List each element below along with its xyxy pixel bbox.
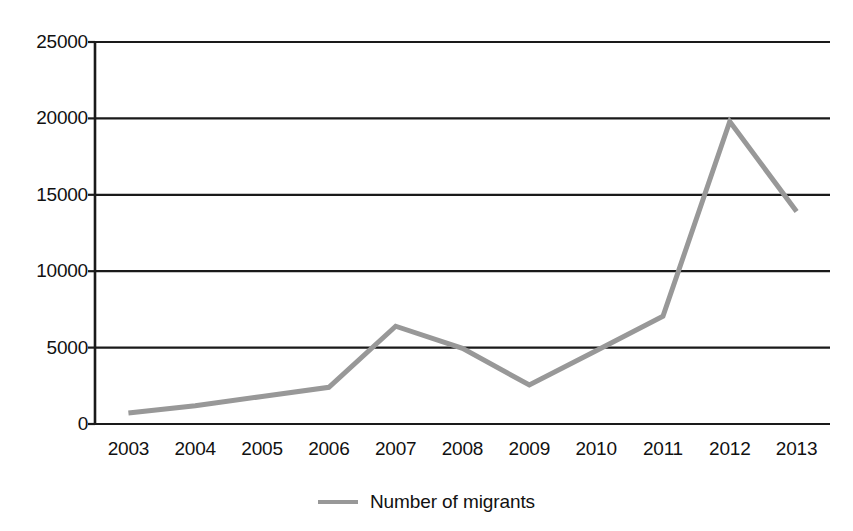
x-axis-tick-label: 2003: [95, 439, 162, 458]
line-swatch-icon: [318, 500, 358, 504]
x-axis-tick-label: 2005: [229, 439, 296, 458]
x-axis-tick-label: 2013: [763, 439, 830, 458]
x-axis-tick-label: 2012: [696, 439, 763, 458]
y-axis-tick-label: 20000: [36, 108, 88, 127]
y-axis-tick-label: 10000: [36, 261, 88, 280]
y-axis-tick-label: 25000: [36, 32, 88, 51]
x-axis-tick-label: 2010: [563, 439, 630, 458]
data-line-1: [128, 121, 796, 413]
x-axis-tick-label: 2009: [496, 439, 563, 458]
y-axis-tick-label: 0: [78, 414, 88, 433]
x-axis-tick-label: 2006: [295, 439, 362, 458]
x-axis-tick-label: 2011: [630, 439, 697, 458]
y-axis-tick-label: 15000: [36, 185, 88, 204]
data-series-group: [128, 121, 796, 413]
legend-entry-label: Number of migrants: [370, 492, 535, 511]
x-axis-tick-label: 2008: [429, 439, 496, 458]
x-axis-tick-label: 2007: [362, 439, 429, 458]
y-axis-tick-label: 5000: [47, 338, 88, 357]
x-axis-tick-label: 2004: [162, 439, 229, 458]
line-chart: 0500010000150002000025000 20032004200520…: [0, 0, 853, 531]
chart-legend: Number of migrants: [0, 492, 853, 511]
gridline-group: [95, 42, 830, 424]
